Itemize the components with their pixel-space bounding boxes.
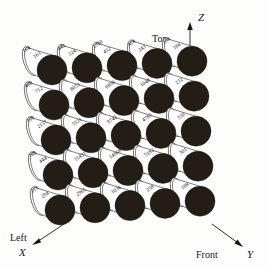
cylinder-array-figure: Z Top X Left Y Front 1644421320414188163… <box>0 0 267 268</box>
front-side-label: Front <box>196 249 218 260</box>
cylinder-face <box>179 81 209 111</box>
cylinder-face <box>115 191 145 221</box>
cylinder-face <box>185 186 215 216</box>
z-axis-arrowhead <box>187 22 193 30</box>
left-side-label: Left <box>10 232 27 243</box>
figure-canvas: Z Top X Left Y Front 1644421320414188163… <box>0 0 267 268</box>
cylinder-face <box>150 188 180 218</box>
cylinder-face <box>80 193 110 223</box>
z-axis-label: Z <box>198 11 205 23</box>
cylinder-face <box>183 151 213 181</box>
y-axis-arrowhead <box>235 239 244 247</box>
x-axis-arrowhead <box>32 238 41 245</box>
cylinder-grid <box>19 36 215 225</box>
cylinder-face <box>181 116 211 146</box>
cylinder-face <box>45 195 75 225</box>
y-axis-line <box>212 224 238 243</box>
x-axis-line <box>37 222 67 242</box>
x-axis-label: X <box>18 246 27 258</box>
y-axis-label: Y <box>247 248 255 260</box>
cylinder-face <box>177 46 207 76</box>
